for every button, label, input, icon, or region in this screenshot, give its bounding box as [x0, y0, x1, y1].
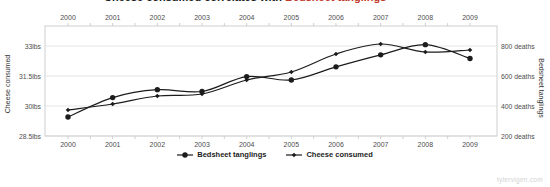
- x-tick-label-bottom: 2000: [60, 141, 76, 148]
- data-point-cheese-consumed: [66, 108, 71, 113]
- legend-label-cheese-consumed: Cheese consumed: [306, 150, 372, 159]
- x-tick-label-top: 2000: [60, 14, 76, 21]
- x-tick-label-bottom: 2006: [328, 141, 344, 148]
- data-point-cheese-consumed: [468, 48, 473, 53]
- x-tick-label-bottom: 2003: [194, 141, 210, 148]
- data-point-cheese-consumed: [334, 52, 339, 57]
- data-point-bedsheet-tanglings: [289, 77, 294, 82]
- left-axis-title: Cheese consumed: [4, 55, 11, 113]
- legend-item-cheese-consumed: Cheese consumed: [286, 150, 372, 159]
- series-line-cheese-consumed: [68, 44, 470, 110]
- x-tick-label-top: 2003: [194, 14, 210, 21]
- x-tick-label-top: 2007: [373, 14, 389, 21]
- x-tick-label-bottom: 2002: [150, 141, 166, 148]
- x-tick-label-bottom: 2008: [418, 141, 434, 148]
- data-point-bedsheet-tanglings: [467, 56, 472, 61]
- x-tick-label-bottom: 2007: [373, 141, 389, 148]
- data-point-cheese-consumed: [423, 50, 428, 55]
- plot-border: [45, 26, 497, 136]
- x-tick-label-bottom: 2001: [105, 141, 121, 148]
- data-point-bedsheet-tanglings: [65, 114, 70, 119]
- x-tick-label-top: 2009: [462, 14, 478, 21]
- y-tick-label-right: 800 deaths: [501, 43, 535, 50]
- data-point-bedsheet-tanglings: [333, 64, 338, 69]
- legend-label-bedsheet-tanglings: Bedsheet tanglings: [197, 150, 266, 159]
- y-tick-label-left: 33lbs: [25, 43, 42, 50]
- x-tick-label-top: 2005: [284, 14, 300, 21]
- watermark: tylervigen.com: [497, 176, 543, 183]
- x-tick-label-bottom: 2009: [462, 141, 478, 148]
- x-tick-label-bottom: 2004: [239, 141, 255, 148]
- y-tick-label-left: 28.5lbs: [19, 133, 42, 140]
- x-tick-label-top: 2004: [239, 14, 255, 21]
- data-point-bedsheet-tanglings: [110, 95, 115, 100]
- x-tick-label-bottom: 2005: [284, 141, 300, 148]
- legend-marker-circle-icon: [177, 151, 193, 159]
- legend-item-bedsheet-tanglings: Bedsheet tanglings: [177, 150, 266, 159]
- y-tick-label-right: 600 deaths: [501, 73, 535, 80]
- x-tick-label-top: 2001: [105, 14, 121, 21]
- right-axis-title: Bedsheet tanglings: [537, 58, 545, 118]
- chart-legend: Bedsheet tanglingsCheese consumed: [0, 150, 550, 159]
- x-tick-label-top: 2006: [328, 14, 344, 21]
- data-point-bedsheet-tanglings: [378, 52, 383, 57]
- y-tick-label-left: 31.5lbs: [19, 73, 42, 80]
- data-point-cheese-consumed: [289, 70, 294, 75]
- legend-marker-diamond-icon: [286, 151, 302, 159]
- x-tick-label-top: 2008: [418, 14, 434, 21]
- data-point-bedsheet-tanglings: [155, 87, 160, 92]
- data-point-bedsheet-tanglings: [423, 42, 428, 47]
- x-tick-label-top: 2002: [150, 14, 166, 21]
- y-tick-label-right: 200 deaths: [501, 133, 535, 140]
- y-tick-label-left: 30lbs: [25, 103, 42, 110]
- y-tick-label-right: 400 deaths: [501, 103, 535, 110]
- data-point-cheese-consumed: [155, 94, 160, 99]
- chart-container: Cheese consumed correlates with Bedsheet…: [0, 0, 550, 187]
